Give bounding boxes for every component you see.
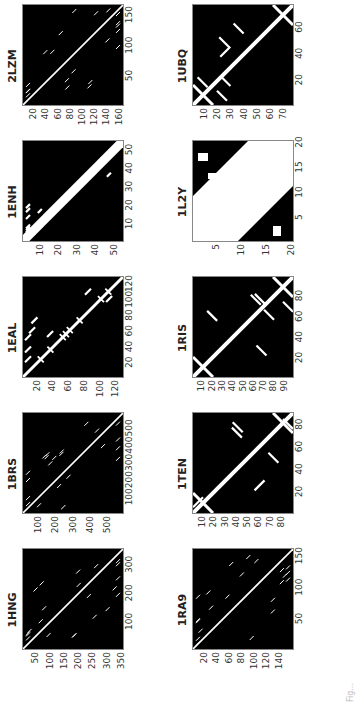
y-tick-label: 70 — [258, 380, 268, 404]
y-tick-label: 40 — [47, 380, 57, 404]
y-tick-label: 200 — [50, 516, 60, 540]
y-tick-label: 250 — [87, 652, 97, 676]
y-tick-label: 100 — [33, 516, 43, 540]
y-tick-label: 120 — [261, 652, 271, 676]
y-tick-label: 20 — [28, 108, 38, 132]
y-tick-label: 20 — [32, 380, 42, 404]
x-tick-label: 50 — [294, 604, 304, 634]
panel-1eal: 1EAL 2040608010012020406080100120 — [6, 272, 166, 404]
contact-map-figure: 1HNG 50100150200250300350100200300 1BRS … — [0, 0, 360, 706]
figure-caption: Fig... — [346, 683, 355, 702]
x-tick-label: 200 — [124, 578, 134, 608]
panel-1ten: 1TEN 102030405060708020406080 — [176, 408, 336, 540]
y-tick-label: 60 — [53, 108, 63, 132]
panel-title: 1BRS — [6, 408, 19, 540]
y-tick-label: 60 — [265, 108, 275, 132]
y-tick-label: 90 — [279, 380, 289, 404]
y-tick-label: 70 — [265, 516, 275, 540]
panel-title: 1UBQ — [176, 0, 189, 132]
y-tick-label: 20 — [199, 652, 209, 676]
x-tick-label: 120 — [124, 269, 134, 299]
y-tick-label: 140 — [274, 652, 284, 676]
panel-1enh: 1ENH 10203040501020304050 — [6, 136, 166, 268]
panel-title: 1RA9 — [176, 544, 189, 676]
y-tick-label: 120 — [89, 108, 99, 132]
panel-title: 1HNG — [6, 544, 19, 676]
y-tick-label: 10 — [236, 244, 246, 268]
contact-map-plot — [22, 276, 124, 378]
y-tick-label: 100 — [249, 652, 259, 676]
y-tick-label: 60 — [63, 380, 73, 404]
y-tick-label: 10 — [199, 108, 209, 132]
y-tick-label: 20 — [207, 380, 217, 404]
y-tick-label: 50 — [252, 108, 262, 132]
panel-1ubq: 1UBQ 10203040506070204060 — [176, 0, 336, 132]
x-tick-label: 150 — [124, 0, 134, 30]
panel-1l2y: 1L2Y 51015205101520 — [176, 136, 336, 268]
y-tick-label: 40 — [227, 380, 237, 404]
panel-title: 2LZM — [6, 0, 19, 132]
y-tick-label: 40 — [239, 108, 249, 132]
panel-1brs: 1BRS 100200300400500100200300400500 — [6, 408, 166, 540]
panel-1hng: 1HNG 50100150200250300350100200300 — [6, 544, 166, 676]
x-tick-label: 50 — [124, 134, 134, 164]
panel-title: 1ENH — [6, 136, 19, 268]
y-tick-label: 10 — [35, 244, 45, 268]
y-tick-label: 40 — [90, 244, 100, 268]
y-tick-label: 40 — [211, 652, 221, 676]
x-tick-label: 300 — [124, 549, 134, 579]
y-tick-label: 30 — [217, 380, 227, 404]
contact-map-plot — [22, 548, 124, 650]
y-tick-label: 40 — [40, 108, 50, 132]
y-tick-label: 80 — [268, 380, 278, 404]
y-tick-label: 20 — [53, 244, 63, 268]
x-tick-label: 40 — [294, 38, 304, 68]
y-tick-label: 80 — [65, 108, 75, 132]
y-tick-label: 40 — [231, 516, 241, 540]
panel-title: 1L2Y — [176, 136, 189, 268]
x-tick-label: 500 — [124, 413, 134, 443]
y-tick-label: 60 — [224, 652, 234, 676]
contact-map-plot — [192, 548, 294, 650]
y-tick-label: 70 — [278, 108, 288, 132]
y-tick-label: 140 — [101, 108, 111, 132]
y-tick-label: 300 — [102, 652, 112, 676]
x-tick-label: 80 — [294, 409, 304, 439]
y-tick-label: 5 — [211, 244, 221, 268]
y-tick-label: 15 — [261, 244, 271, 268]
y-tick-label: 50 — [30, 652, 40, 676]
y-tick-label: 20 — [286, 244, 296, 268]
y-tick-label: 50 — [242, 516, 252, 540]
contact-map-plot — [192, 4, 294, 106]
y-tick-label: 10 — [196, 380, 206, 404]
x-tick-label: 150 — [294, 541, 304, 571]
y-tick-label: 100 — [77, 108, 87, 132]
y-tick-label: 150 — [59, 652, 69, 676]
x-tick-label: 80 — [294, 281, 304, 311]
y-tick-label: 500 — [102, 516, 112, 540]
contact-map-plot — [22, 140, 124, 242]
panel-title: 1EAL — [6, 272, 19, 404]
y-tick-label: 30 — [72, 244, 82, 268]
y-tick-label: 60 — [248, 380, 258, 404]
contact-map-plot — [22, 4, 124, 106]
y-tick-label: 60 — [253, 516, 263, 540]
x-tick-label: 50 — [124, 61, 134, 91]
y-tick-label: 160 — [114, 108, 124, 132]
y-tick-label: 400 — [85, 516, 95, 540]
contact-map-plot — [192, 276, 294, 378]
y-tick-label: 100 — [95, 380, 105, 404]
panel-title: 1RIS — [176, 272, 189, 404]
y-tick-label: 30 — [220, 516, 230, 540]
panel-2lzm: 2LZM 2040608010012014016050100150 — [6, 0, 166, 132]
panel-1ris: 1RIS 10203040506070809020406080 — [176, 272, 336, 404]
x-tick-label: 60 — [294, 12, 304, 42]
y-tick-label: 350 — [116, 652, 126, 676]
y-tick-label: 80 — [79, 380, 89, 404]
x-tick-label: 100 — [294, 572, 304, 602]
contact-map-plot — [192, 140, 294, 242]
y-tick-label: 50 — [238, 380, 248, 404]
contact-map-plot — [22, 412, 124, 514]
y-tick-label: 80 — [236, 652, 246, 676]
y-tick-label: 50 — [109, 244, 119, 268]
